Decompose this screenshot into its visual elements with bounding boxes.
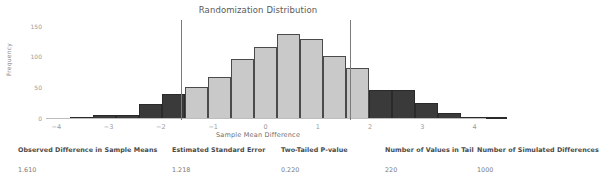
x-axis-label: Sample Mean Difference bbox=[0, 131, 516, 139]
summary-column-value: 0.220 bbox=[281, 166, 299, 174]
summary-column-header: Estimated Standard Error bbox=[172, 146, 265, 154]
x-tick-label: −4 bbox=[46, 123, 66, 131]
histogram-bar-center bbox=[231, 59, 254, 119]
x-tick-label: 4 bbox=[465, 123, 485, 131]
summary-column-value: 1000 bbox=[477, 166, 493, 174]
summary-column-header: Number of Values in Tail bbox=[385, 146, 474, 154]
histogram-bars bbox=[0, 0, 516, 119]
x-tick-label: 3 bbox=[412, 123, 432, 131]
histogram-bar-tail bbox=[484, 117, 507, 119]
histogram-bar-tail bbox=[369, 90, 392, 119]
summary-column-header: Observed Difference in Sample Means bbox=[18, 146, 157, 154]
x-tick-label: 0 bbox=[256, 123, 276, 131]
summary-column-value: 220 bbox=[385, 166, 397, 174]
histogram-bar-center bbox=[185, 87, 208, 119]
histogram-bar-center bbox=[208, 77, 231, 119]
reference-line bbox=[350, 20, 351, 120]
x-axis-baseline bbox=[46, 118, 486, 119]
x-tick-label: 2 bbox=[360, 123, 380, 131]
histogram-bar-center bbox=[254, 47, 277, 119]
histogram-bar-center bbox=[323, 56, 346, 119]
summary-column-header: Number of Simulated Differences bbox=[477, 146, 599, 154]
histogram-bar-tail bbox=[392, 90, 415, 119]
summary-column-header: Two-Tailed P-value bbox=[281, 146, 348, 154]
x-tick-label: −1 bbox=[203, 123, 223, 131]
chart-plot-area: Randomization Distribution Frequency Sam… bbox=[0, 0, 516, 142]
histogram-bar-center bbox=[277, 34, 300, 119]
x-tick-label: −2 bbox=[151, 123, 171, 131]
x-tick-label: −3 bbox=[99, 123, 119, 131]
histogram-bar-tail bbox=[415, 103, 438, 119]
histogram-bar-center bbox=[300, 39, 323, 119]
summary-column-value: 1.610 bbox=[18, 166, 36, 174]
histogram-bar-tail bbox=[139, 104, 162, 119]
x-tick-label: 1 bbox=[308, 123, 328, 131]
summary-table: Observed Difference in Sample MeansEstim… bbox=[0, 146, 516, 185]
summary-column-value: 1.218 bbox=[172, 166, 190, 174]
reference-line bbox=[181, 20, 182, 120]
